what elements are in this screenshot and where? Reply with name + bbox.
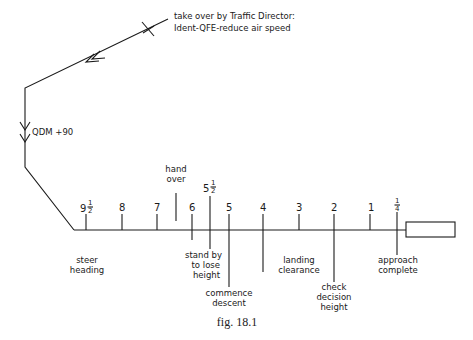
- tick-5-half: 5: [203, 183, 209, 194]
- heading-label: QDM +90: [32, 127, 73, 137]
- svg-text:complete: complete: [378, 265, 418, 275]
- svg-text:approach: approach: [378, 255, 418, 265]
- tick-marks: [86, 193, 397, 287]
- tick-7: 7: [154, 202, 160, 213]
- svg-text:heading: heading: [70, 265, 104, 275]
- tick-1: 1: [368, 202, 374, 213]
- annotation-steer-heading: steer heading: [70, 255, 104, 275]
- svg-text:1: 1: [211, 179, 215, 187]
- svg-text:decision: decision: [316, 292, 351, 302]
- svg-text:4: 4: [395, 205, 400, 213]
- tick-6: 6: [189, 202, 195, 213]
- flight-path: [25, 19, 168, 230]
- svg-text:stand by: stand by: [185, 250, 222, 260]
- annotation-check-decision-height: check decision height: [316, 282, 351, 312]
- runway-rectangle: [406, 222, 455, 237]
- tick-8: 8: [119, 202, 125, 213]
- svg-text:descent: descent: [212, 298, 246, 308]
- svg-text:1: 1: [88, 199, 92, 207]
- tick-5: 5: [226, 202, 232, 213]
- takeover-star-icon: [142, 22, 154, 36]
- annotation-landing-clearance: landing clearance: [278, 255, 319, 275]
- svg-text:check: check: [322, 282, 347, 292]
- tick-2: 2: [331, 202, 337, 213]
- svg-text:2: 2: [211, 187, 215, 195]
- tick-3: 3: [296, 202, 302, 213]
- annotation-approach-complete: approach complete: [378, 255, 418, 275]
- figure-caption: fig. 18.1: [217, 315, 257, 329]
- svg-text:steer: steer: [76, 255, 98, 265]
- svg-text:to lose: to lose: [192, 260, 220, 270]
- tick-4: 4: [260, 202, 266, 213]
- svg-text:commence: commence: [206, 288, 253, 298]
- tick-quarter: 1: [395, 197, 399, 205]
- svg-text:hand: hand: [165, 164, 186, 174]
- direction-arrow-icon: [86, 51, 105, 62]
- svg-text:landing: landing: [283, 255, 315, 265]
- annotation-stand-by: stand by to lose height: [185, 250, 222, 280]
- tick-9-half: 9: [80, 203, 86, 214]
- takeover-note-line1: take over by Traffic Director:: [174, 11, 295, 21]
- annotation-commence-descent: commence descent: [206, 288, 253, 308]
- svg-text:height: height: [320, 302, 348, 312]
- tick-labels: 9 1 2 8 7 6 5 1 2 5 4 3 2 1 1 4: [80, 179, 400, 215]
- takeover-note-line2: Ident-QFE-reduce air speed: [174, 23, 291, 33]
- svg-text:over: over: [167, 174, 186, 184]
- svg-text:height: height: [193, 270, 221, 280]
- svg-text:clearance: clearance: [278, 265, 319, 275]
- annotation-hand-over: hand over: [165, 164, 186, 184]
- svg-text:2: 2: [88, 207, 92, 215]
- approach-diagram: take over by Traffic Director: Ident-QFE…: [0, 0, 473, 340]
